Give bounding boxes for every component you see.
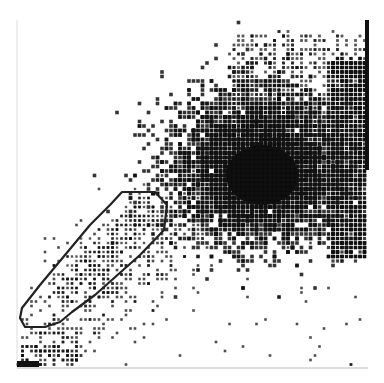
dot-plot [0,0,384,383]
